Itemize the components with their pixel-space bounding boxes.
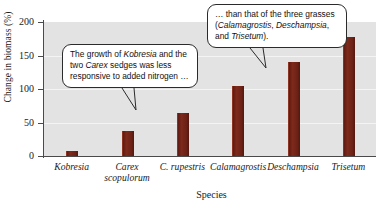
bar-trisetum	[343, 37, 355, 156]
callout-right-text: … than that of the three grasses (Calama…	[215, 9, 335, 41]
x-category-label: Deschampsia	[265, 161, 320, 172]
y-tick-label-0: 0	[0, 150, 34, 161]
callout-left-tail	[120, 86, 160, 112]
x-category-label: Trisetum	[321, 161, 376, 172]
y-tick-label-50: 50	[0, 117, 34, 128]
callout-left-text: The growth of Kobresia and the two Carex…	[70, 49, 189, 81]
callout-right-tail	[248, 46, 288, 72]
bar-deschampsia	[288, 62, 300, 156]
bar-carex-scopulorum	[122, 131, 134, 156]
gridline-100	[44, 89, 376, 90]
callout-sedges: The growth of Kobresia and the two Carex…	[62, 44, 198, 88]
y-tick-label-100: 100	[0, 83, 34, 94]
x-category-label: Calamagrostis	[210, 161, 265, 172]
x-axis-line	[43, 156, 376, 157]
callout-grasses: … than that of the three grasses (Calama…	[207, 4, 347, 48]
y-tick-150	[38, 56, 44, 57]
x-category-label: Kobresia	[44, 161, 99, 172]
gridline-50	[44, 123, 376, 124]
y-tick-200	[38, 22, 44, 23]
y-tick-0	[38, 156, 44, 157]
x-axis-title: Species	[44, 189, 379, 200]
bar-chart-figure: Change in biomass (%) 200 150 100 50 0 K…	[0, 0, 379, 209]
bar-kobresia	[66, 151, 78, 156]
x-category-label: C. rupestris	[155, 161, 210, 172]
y-tick-label-200: 200	[0, 16, 34, 27]
bar-calamagrostis	[232, 86, 244, 156]
y-tick-label-150: 150	[0, 50, 34, 61]
y-tick-100	[38, 89, 44, 90]
x-category-label: Carexscopulorum	[99, 161, 154, 183]
y-tick-50	[38, 123, 44, 124]
bar-c-rupestris	[177, 113, 189, 156]
